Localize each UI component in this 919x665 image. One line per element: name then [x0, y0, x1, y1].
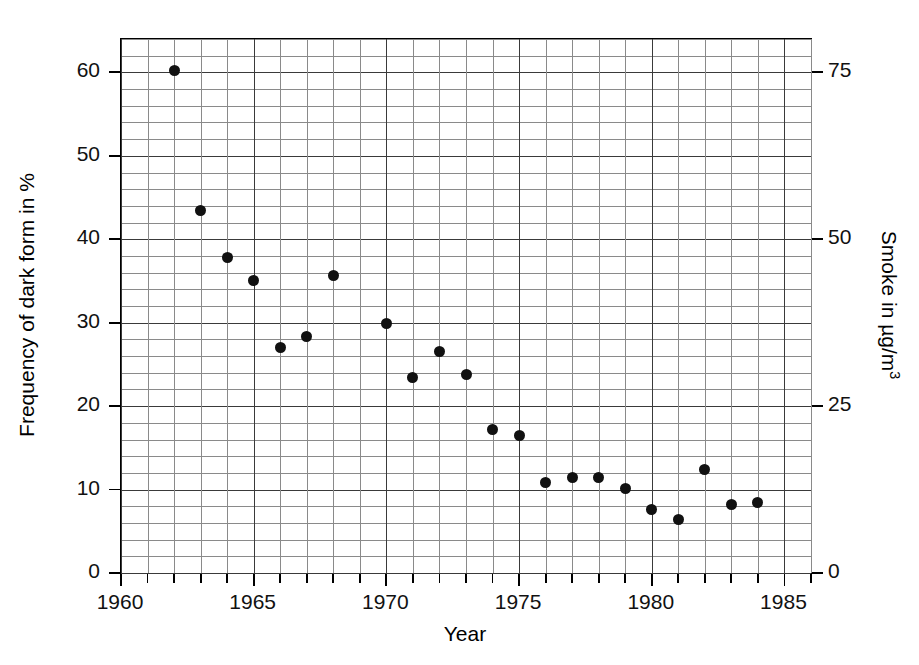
- x-axis-tick-label: 1980: [591, 590, 711, 614]
- x-axis-minor-tick: [545, 574, 547, 583]
- data-point: [407, 372, 418, 383]
- x-axis-minor-tick: [147, 574, 149, 583]
- data-point: [381, 318, 392, 329]
- x-axis-minor-tick: [704, 574, 706, 583]
- y-axis-left-tick-label: 0: [20, 559, 100, 583]
- y-axis-left-tick: [109, 238, 120, 240]
- x-axis-minor-tick: [173, 574, 175, 583]
- x-axis-major-tick: [120, 574, 122, 586]
- x-axis-minor-tick: [439, 574, 441, 583]
- data-point: [461, 369, 472, 380]
- data-point: [248, 275, 259, 286]
- y-axis-left-tick: [109, 155, 120, 157]
- y-axis-right-tick-label: 25: [828, 392, 908, 416]
- y-axis-right-title-text: Smoke in µg/m: [878, 231, 901, 371]
- y-axis-left-tick: [109, 572, 120, 574]
- x-axis-minor-tick: [571, 574, 573, 583]
- y-axis-left-tick-label: 50: [20, 142, 100, 166]
- data-point: [195, 205, 206, 216]
- x-axis-major-tick: [651, 574, 653, 586]
- x-axis-tick-label: 1960: [60, 590, 180, 614]
- x-axis-tick-label: 1965: [193, 590, 313, 614]
- x-axis-major-tick: [385, 574, 387, 586]
- y-axis-right-tick: [812, 71, 823, 73]
- y-axis-left-tick-label: 60: [20, 58, 100, 82]
- data-point: [752, 497, 763, 508]
- y-axis-right-tick: [812, 405, 823, 407]
- data-point: [301, 331, 312, 342]
- data-point: [169, 65, 180, 76]
- x-axis-minor-tick: [677, 574, 679, 583]
- data-point: [620, 483, 631, 494]
- y-axis-right-tick: [812, 572, 823, 574]
- x-axis-minor-tick: [624, 574, 626, 583]
- gridline-vertical-minor: [811, 39, 812, 573]
- y-axis-right-title: Smoke in µg/m3: [880, 38, 910, 572]
- data-point: [567, 472, 578, 483]
- scatter-chart-figure: Frequency of dark form in % Smoke in µg/…: [0, 0, 919, 665]
- x-axis-minor-tick: [730, 574, 732, 583]
- x-axis-major-tick: [253, 574, 255, 586]
- x-axis-minor-tick: [598, 574, 600, 583]
- x-axis-tick-label: 1985: [723, 590, 843, 614]
- x-axis-minor-tick: [332, 574, 334, 583]
- y-axis-left-tick-label: 40: [20, 225, 100, 249]
- y-axis-left-tick: [109, 489, 120, 491]
- data-point: [699, 464, 710, 475]
- x-axis-major-tick: [784, 574, 786, 586]
- y-axis-left-tick-label: 10: [20, 476, 100, 500]
- x-axis-minor-tick: [359, 574, 361, 583]
- x-axis-major-tick: [518, 574, 520, 586]
- y-axis-left-tick-label: 20: [20, 392, 100, 416]
- y-axis-left-tick: [109, 322, 120, 324]
- x-axis-title: Year: [120, 622, 810, 646]
- data-point: [673, 514, 684, 525]
- data-point: [726, 499, 737, 510]
- x-axis-minor-tick: [279, 574, 281, 583]
- x-axis-minor-tick: [810, 574, 812, 583]
- y-axis-right-tick: [812, 238, 823, 240]
- x-axis-minor-tick: [200, 574, 202, 583]
- data-point: [222, 252, 233, 263]
- y-axis-right-tick-label: 75: [828, 58, 908, 82]
- data-point: [540, 477, 551, 488]
- data-point: [593, 472, 604, 483]
- data-point: [487, 424, 498, 435]
- x-axis-minor-tick: [465, 574, 467, 583]
- x-axis-minor-tick: [412, 574, 414, 583]
- y-axis-right-tick-label: 0: [828, 559, 908, 583]
- y-axis-right-title-exponent: 3: [887, 371, 903, 379]
- data-point: [646, 504, 657, 515]
- y-axis-right-tick-label: 50: [828, 225, 908, 249]
- data-point: [328, 270, 339, 281]
- data-point: [275, 342, 286, 353]
- x-axis-minor-tick: [757, 574, 759, 583]
- plot-area: [120, 38, 812, 574]
- data-points-layer: [121, 39, 811, 573]
- x-axis-tick-label: 1970: [325, 590, 445, 614]
- y-axis-left-tick-label: 30: [20, 309, 100, 333]
- data-point: [434, 346, 445, 357]
- x-axis-minor-tick: [226, 574, 228, 583]
- x-axis-minor-tick: [306, 574, 308, 583]
- x-axis-minor-tick: [492, 574, 494, 583]
- data-point: [514, 430, 525, 441]
- y-axis-left-tick: [109, 405, 120, 407]
- y-axis-left-tick: [109, 71, 120, 73]
- x-axis-tick-label: 1975: [458, 590, 578, 614]
